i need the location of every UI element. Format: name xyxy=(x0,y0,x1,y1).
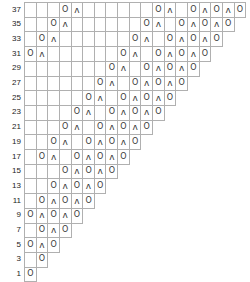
chart-cell-empty xyxy=(164,17,176,32)
chart-row: 1O xyxy=(0,267,246,282)
chart-cell-blank xyxy=(234,208,246,223)
chart-cell-empty xyxy=(25,91,37,106)
yarn-over-symbol: O xyxy=(200,48,211,61)
chart-cell-yarn-over: O xyxy=(118,120,130,135)
chart-cell-decrease: ʌ xyxy=(36,238,48,253)
chart-cell-yarn-over: O xyxy=(71,208,83,223)
chart-cell-yarn-over: O xyxy=(59,194,71,209)
chart-cell-blank xyxy=(199,135,211,150)
yarn-over-symbol: O xyxy=(130,77,141,90)
decrease-symbol: ʌ xyxy=(83,106,94,119)
chart-cell-empty xyxy=(83,32,95,47)
chart-cell-empty xyxy=(25,135,37,150)
yarn-over-symbol: O xyxy=(153,77,164,90)
chart-row: 29OʌOʌOʌO xyxy=(0,61,246,76)
chart-cell-empty xyxy=(36,135,48,150)
chart-cell-empty xyxy=(106,3,118,18)
chart-cell-blank xyxy=(94,194,106,209)
chart-row: 25OʌOʌOʌO xyxy=(0,91,246,106)
chart-cell-decrease: ʌ xyxy=(106,120,118,135)
chart-cell-blank xyxy=(153,252,165,267)
chart-cell-blank xyxy=(222,105,234,120)
decrease-symbol: ʌ xyxy=(72,165,83,178)
chart-cell-decrease: ʌ xyxy=(36,208,48,223)
yarn-over-symbol: O xyxy=(95,121,106,134)
chart-cell-decrease: ʌ xyxy=(71,164,83,179)
chart-cell-blank xyxy=(141,208,153,223)
yarn-over-symbol: O xyxy=(48,180,59,193)
decrease-symbol: ʌ xyxy=(83,180,94,193)
chart-cell-empty xyxy=(94,17,106,32)
row-number-label: 11 xyxy=(0,194,25,209)
chart-cell-decrease: ʌ xyxy=(164,3,176,18)
chart-cell-blank xyxy=(199,105,211,120)
yarn-over-symbol: O xyxy=(95,180,106,193)
chart-cell-decrease: ʌ xyxy=(48,194,60,209)
chart-cell-blank xyxy=(94,267,106,282)
chart-cell-blank xyxy=(222,238,234,253)
chart-cell-blank xyxy=(176,238,188,253)
chart-cell-decrease: ʌ xyxy=(83,179,95,194)
chart-cell-blank xyxy=(106,208,118,223)
chart-cell-yarn-over: O xyxy=(187,32,199,47)
chart-cell-blank xyxy=(211,135,223,150)
chart-cell-yarn-over: O xyxy=(164,61,176,76)
chart-cell-yarn-over: O xyxy=(129,76,141,91)
yarn-over-symbol: O xyxy=(83,136,94,149)
chart-cell-decrease: ʌ xyxy=(118,105,130,120)
chart-cell-decrease: ʌ xyxy=(83,150,95,165)
chart-cell-yarn-over: O xyxy=(59,3,71,18)
chart-cell-blank xyxy=(153,120,165,135)
chart-cell-blank xyxy=(234,105,246,120)
row-number-label: 15 xyxy=(0,164,25,179)
chart-cell-empty xyxy=(48,91,60,106)
chart-cell-decrease: ʌ xyxy=(71,120,83,135)
chart-row: 9OʌOʌO xyxy=(0,208,246,223)
row-number-label: 3 xyxy=(0,252,25,267)
chart-cell-blank xyxy=(118,179,130,194)
chart-cell-empty xyxy=(71,32,83,47)
chart-cell-decrease: ʌ xyxy=(59,179,71,194)
chart-cell-blank xyxy=(199,179,211,194)
yarn-over-symbol: O xyxy=(60,195,71,208)
chart-cell-yarn-over: O xyxy=(106,164,118,179)
chart-cell-blank xyxy=(141,223,153,238)
yarn-over-symbol: O xyxy=(72,151,83,164)
chart-cell-yarn-over: O xyxy=(25,238,37,253)
chart-cell-decrease: ʌ xyxy=(164,76,176,91)
chart-cell-empty xyxy=(36,105,48,120)
chart-cell-blank xyxy=(234,32,246,47)
yarn-over-symbol: O xyxy=(118,48,129,61)
chart-cell-blank xyxy=(176,252,188,267)
chart-cell-blank xyxy=(164,164,176,179)
yarn-over-symbol: O xyxy=(153,48,164,61)
chart-cell-blank xyxy=(118,164,130,179)
yarn-over-symbol: O xyxy=(211,33,222,46)
yarn-over-symbol: O xyxy=(25,268,36,281)
chart-cell-decrease: ʌ xyxy=(129,47,141,62)
chart-cell-decrease: ʌ xyxy=(118,135,130,150)
yarn-over-symbol: O xyxy=(37,253,48,266)
chart-row: 3O xyxy=(0,252,246,267)
chart-cell-decrease: ʌ xyxy=(59,135,71,150)
yarn-over-symbol: O xyxy=(141,92,152,105)
chart-cell-yarn-over: O xyxy=(222,17,234,32)
chart-cell-empty xyxy=(94,3,106,18)
row-number-label: 31 xyxy=(0,47,25,62)
chart-cell-decrease: ʌ xyxy=(48,150,60,165)
chart-cell-blank xyxy=(164,150,176,165)
chart-cell-decrease: ʌ xyxy=(48,32,60,47)
chart-cell-blank xyxy=(199,120,211,135)
chart-cell-blank xyxy=(234,179,246,194)
chart-cell-yarn-over: O xyxy=(106,61,118,76)
yarn-over-symbol: O xyxy=(130,106,141,119)
chart-cell-yarn-over: O xyxy=(83,135,95,150)
chart-row: 11OʌOʌO xyxy=(0,194,246,209)
yarn-over-symbol: O xyxy=(72,106,83,119)
decrease-symbol: ʌ xyxy=(95,165,106,178)
yarn-over-symbol: O xyxy=(83,165,94,178)
yarn-over-symbol: O xyxy=(141,62,152,75)
chart-cell-decrease: ʌ xyxy=(94,135,106,150)
chart-cell-blank xyxy=(199,194,211,209)
chart-cell-blank xyxy=(48,267,60,282)
